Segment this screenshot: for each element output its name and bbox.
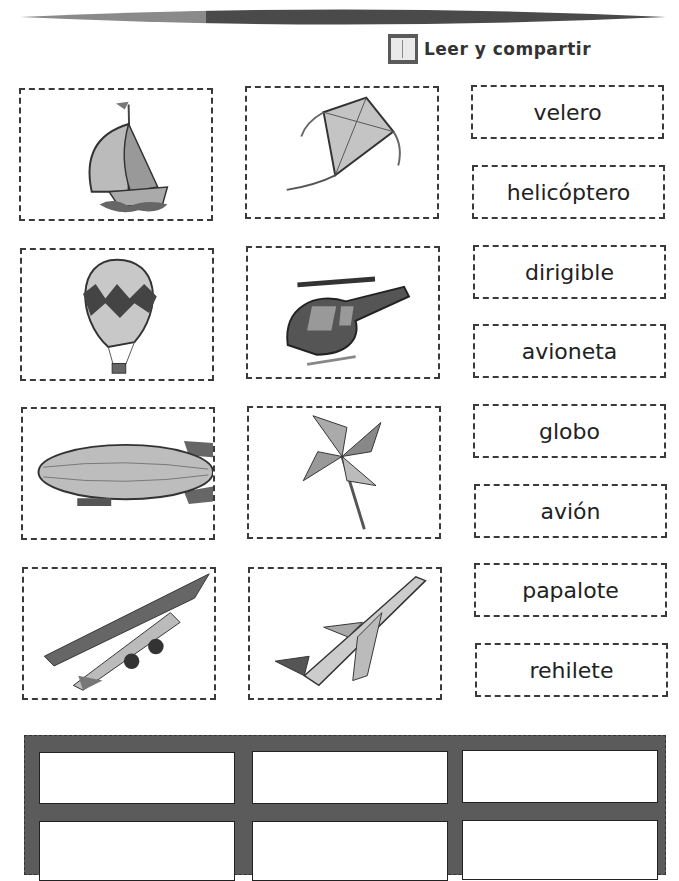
picture-card-pinwheel[interactable]: [247, 406, 441, 539]
blimp-icon: [23, 409, 213, 538]
answer-slot-2[interactable]: [252, 751, 448, 804]
picture-card-sailboat[interactable]: [19, 88, 213, 221]
book-icon: [388, 34, 418, 64]
word-card-velero[interactable]: velero: [471, 85, 664, 139]
hot-air-balloon-icon: [22, 250, 212, 379]
word-card-globo[interactable]: globo: [473, 404, 666, 458]
sailboat-icon: [21, 90, 211, 219]
picture-card-helicopter[interactable]: [246, 246, 440, 379]
picture-card-hot-air-balloon[interactable]: [20, 248, 214, 381]
picture-card-jet-airplane[interactable]: [248, 567, 442, 700]
answer-slot-5[interactable]: [252, 821, 448, 881]
word-card-helicoptero[interactable]: helicóptero: [472, 165, 665, 219]
answer-slot-4[interactable]: [39, 821, 235, 881]
section-title: Leer y compartir: [424, 39, 591, 59]
helicopter-icon: [248, 248, 438, 377]
answer-grid: [24, 735, 666, 875]
top-decorative-bar: [18, 6, 668, 28]
answer-slot-3[interactable]: [462, 750, 658, 803]
section-header: Leer y compartir: [388, 32, 591, 66]
word-card-avioneta[interactable]: avioneta: [473, 324, 666, 378]
word-card-avion[interactable]: avión: [474, 484, 667, 538]
picture-card-small-plane[interactable]: [22, 567, 216, 700]
word-card-papalote[interactable]: papalote: [474, 563, 667, 617]
picture-card-kite[interactable]: [245, 86, 439, 219]
kite-icon: [247, 88, 437, 217]
picture-card-blimp[interactable]: [21, 407, 215, 540]
small-plane-icon: [24, 569, 214, 698]
pinwheel-icon: [249, 408, 439, 537]
answer-slot-6[interactable]: [462, 820, 658, 880]
answer-slot-1[interactable]: [39, 752, 235, 804]
word-card-dirigible[interactable]: dirigible: [473, 245, 666, 299]
word-card-rehilete[interactable]: rehilete: [475, 643, 668, 697]
airplane-icon: [250, 569, 440, 698]
